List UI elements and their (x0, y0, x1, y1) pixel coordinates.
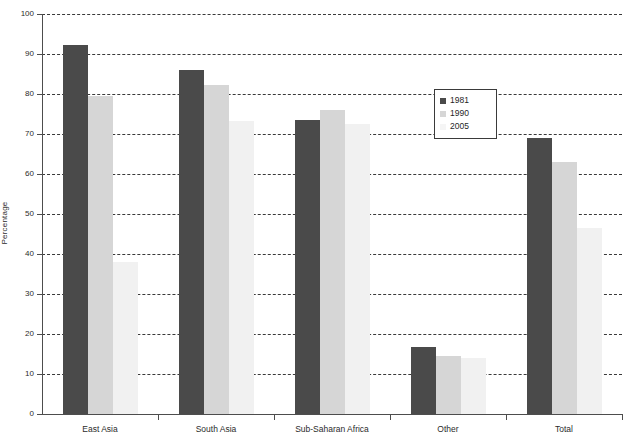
y-tick-label: 70 (4, 129, 34, 138)
bar (527, 138, 552, 414)
plot-area: 0102030405060708090100 East AsiaSouth As… (42, 14, 622, 414)
gridline (42, 94, 622, 95)
legend-item: 2005 (440, 120, 491, 133)
legend-label: 1990 (450, 109, 469, 118)
x-tick-mark (274, 414, 275, 420)
x-tick-mark (390, 414, 391, 420)
bar (295, 120, 320, 414)
x-axis-category-label: East Asia (82, 424, 117, 434)
bar (229, 121, 254, 414)
bar (204, 85, 229, 414)
bar-chart: Percentage 0102030405060708090100 East A… (0, 0, 629, 446)
y-tick-label: 100 (4, 9, 34, 18)
bar (411, 347, 436, 414)
bar (63, 45, 88, 414)
bar (88, 96, 113, 414)
x-tick-mark (158, 414, 159, 420)
bar (320, 110, 345, 414)
x-axis-line (42, 414, 622, 415)
y-tick-mark (37, 414, 42, 415)
legend-swatch-icon (440, 98, 446, 104)
y-tick-mark (37, 294, 42, 295)
y-tick-mark (37, 14, 42, 15)
legend-item: 1981 (440, 94, 491, 107)
y-tick-mark (37, 94, 42, 95)
legend-label: 1981 (450, 96, 469, 105)
bar (113, 262, 138, 414)
bar (345, 124, 370, 414)
y-tick-label: 40 (4, 249, 34, 258)
legend-item: 1990 (440, 107, 491, 120)
y-tick-mark (37, 254, 42, 255)
x-axis-category-label: Other (437, 424, 458, 434)
bar (179, 70, 204, 414)
x-tick-mark (506, 414, 507, 420)
y-tick-label: 10 (4, 369, 34, 378)
x-tick-mark (622, 414, 623, 420)
x-axis-category-label: Sub-Saharan Africa (295, 424, 369, 434)
y-tick-label: 60 (4, 169, 34, 178)
bar (552, 162, 577, 414)
y-tick-mark (37, 134, 42, 135)
legend-label: 2005 (450, 122, 469, 131)
y-tick-mark (37, 54, 42, 55)
y-tick-mark (37, 334, 42, 335)
y-tick-label: 80 (4, 89, 34, 98)
y-axis-line (42, 14, 43, 414)
y-tick-mark (37, 214, 42, 215)
x-axis-category-label: Total (555, 424, 573, 434)
bar (436, 356, 461, 414)
y-tick-label: 20 (4, 329, 34, 338)
y-tick-label: 0 (4, 409, 34, 418)
y-axis-title: Percentage (0, 0, 14, 446)
x-axis-category-label: South Asia (196, 424, 237, 434)
y-tick-mark (37, 174, 42, 175)
legend-swatch-icon (440, 111, 446, 117)
legend-swatch-icon (440, 124, 446, 130)
bar (577, 228, 602, 414)
y-tick-label: 90 (4, 49, 34, 58)
y-tick-label: 30 (4, 289, 34, 298)
y-tick-label: 50 (4, 209, 34, 218)
y-tick-mark (37, 374, 42, 375)
gridline (42, 54, 622, 55)
gridline (42, 14, 622, 15)
legend: 198119902005 (434, 89, 497, 139)
bar (461, 358, 486, 414)
